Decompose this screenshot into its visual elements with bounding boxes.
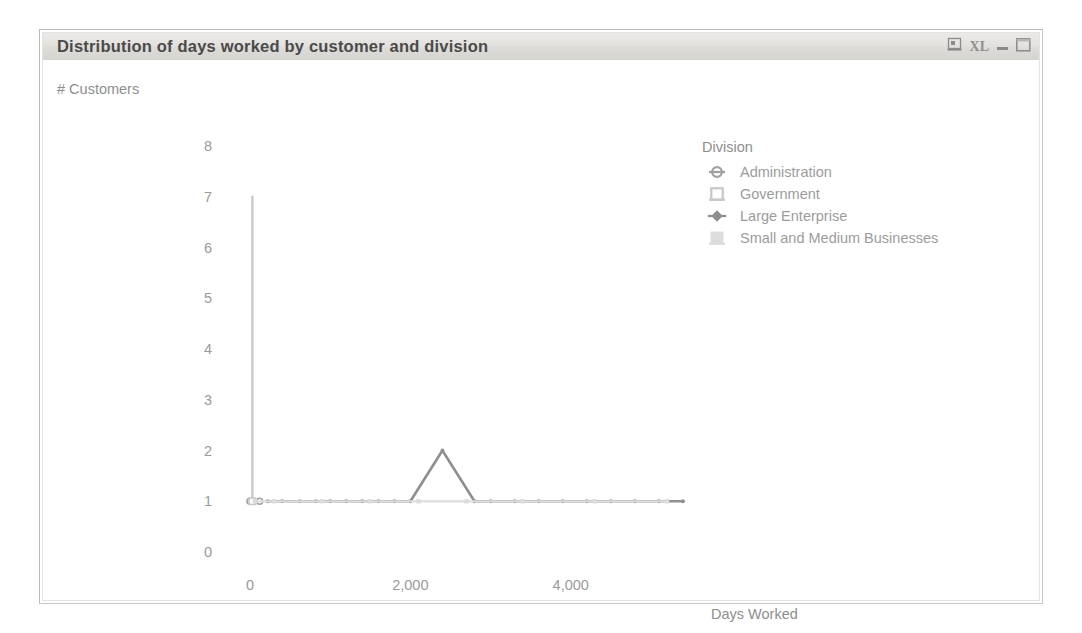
export-report-icon[interactable] (947, 37, 962, 56)
x-axis-label: Days Worked (711, 606, 798, 622)
data-point-marker (709, 232, 725, 244)
legend-item-government[interactable]: Government (702, 183, 1032, 205)
legend-entries: AdministrationGovernmentLarge Enterprise… (702, 161, 1032, 249)
page-title: Distribution of days worked by customer … (57, 37, 488, 56)
legend-marker-circle-open-icon (702, 162, 732, 182)
legend-marker-square-open-icon (702, 184, 732, 204)
minimize-button[interactable] (997, 47, 1008, 50)
legend-label: Government (732, 186, 820, 202)
chart-area: # Customers Days Worked 012345678 02,000… (43, 60, 1039, 599)
legend-item-administration[interactable]: Administration (702, 161, 1032, 183)
legend-item-large-enterprise[interactable]: Large Enterprise (702, 205, 1032, 227)
legend-marker-square-light-icon (702, 228, 732, 248)
series-large-enterprise (266, 449, 685, 504)
excel-export-icon[interactable]: XL (970, 40, 989, 54)
screenshot-root: Distribution of days worked by customer … (0, 0, 1082, 633)
legend-label: Administration (732, 164, 832, 180)
window-title-bar: Distribution of days worked by customer … (43, 33, 1039, 60)
legend-label: Small and Medium Businesses (732, 230, 938, 246)
legend-title: Division (702, 139, 1032, 155)
legend-item-small-and-medium-businesses[interactable]: Small and Medium Businesses (702, 227, 1032, 249)
legend: Division AdministrationGovernmentLarge E… (702, 139, 1032, 249)
data-point-marker (708, 210, 726, 222)
maximize-button[interactable] (1016, 38, 1031, 56)
data-point-marker (709, 167, 725, 177)
series-government (249, 197, 255, 505)
window-controls: XL (947, 37, 1031, 56)
legend-marker-diamond-filled-icon (702, 206, 732, 226)
data-point-marker (709, 188, 725, 200)
chart-window-panel: Distribution of days worked by customer … (39, 29, 1043, 604)
legend-label: Large Enterprise (732, 208, 847, 224)
